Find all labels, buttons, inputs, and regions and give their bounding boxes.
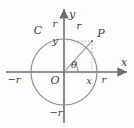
label-radius-x-negative: −r [7,75,20,85]
label-coordinate-x: x [86,76,92,86]
radius-segment-op [64,41,92,72]
label-origin-o: O [50,75,59,86]
label-radius-y-negative: −r [49,108,62,118]
label-point-p: P [97,28,104,39]
label-coordinate-y: y [52,36,58,46]
point-p-marker [91,40,93,42]
label-axis-x: x [121,57,127,68]
trigonometry-circle-diagram: C O P θ x y r −r r −r x y r [0,0,134,128]
label-angle-theta: θ [71,60,77,70]
diagram-canvas [0,0,134,128]
label-radius-x-positive: r [102,75,107,85]
label-circle-c: C [34,25,42,36]
label-axis-y: y [69,9,75,20]
label-radius-y-positive: r [53,19,58,29]
label-radius-r: r [77,21,82,31]
